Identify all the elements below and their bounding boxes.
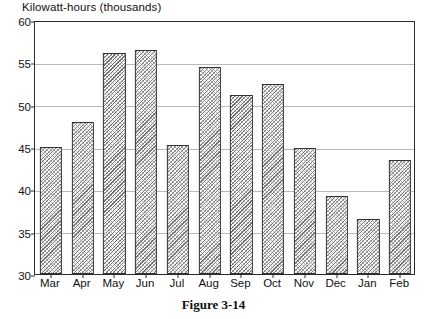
- bar-apr[interactable]: [72, 122, 94, 274]
- bar-slot: [257, 22, 289, 274]
- bar-slot: [353, 22, 385, 274]
- x-axis-tick-label-aug: Aug: [198, 277, 218, 289]
- x-axis-tick-label-oct: Oct: [263, 277, 281, 289]
- bar-sep[interactable]: [230, 95, 252, 274]
- bar-slot: [67, 22, 99, 274]
- x-axis-tick-label-mar: Mar: [40, 277, 60, 289]
- bar-slot: [226, 22, 258, 274]
- x-axis-tick-label-apr: Apr: [73, 277, 91, 289]
- x-axis-tick-label-dec: Dec: [325, 277, 345, 289]
- x-axis-labels: MarAprMayJunJulAugSepOctNovDecJanFeb: [34, 277, 415, 293]
- bar-dec[interactable]: [326, 196, 348, 274]
- bar-slot: [289, 22, 321, 274]
- bar-slot: [35, 22, 67, 274]
- figure-container: Kilowatt-hours (thousands) 3035404550556…: [0, 0, 427, 319]
- x-axis-tick-label-jan: Jan: [358, 277, 377, 289]
- bar-slot: [130, 22, 162, 274]
- figure-caption: Figure 3-14: [0, 297, 427, 313]
- y-axis-tick-label: 60: [18, 16, 31, 28]
- y-axis-tick-label: 30: [18, 270, 31, 282]
- bar-jun[interactable]: [135, 50, 157, 274]
- bar-jul[interactable]: [167, 145, 189, 274]
- bars-layer: [35, 22, 414, 274]
- x-axis-tick-label-jun: Jun: [136, 277, 155, 289]
- bar-slot: [384, 22, 416, 274]
- bar-oct[interactable]: [262, 84, 284, 274]
- x-axis-tick-label-may: May: [103, 277, 125, 289]
- bar-feb[interactable]: [389, 160, 411, 274]
- plot-area: 30354045505560: [34, 21, 415, 275]
- chart-title: Kilowatt-hours (thousands): [22, 1, 161, 13]
- bar-jan[interactable]: [357, 219, 379, 274]
- bar-slot: [321, 22, 353, 274]
- bar-may[interactable]: [103, 53, 125, 274]
- x-axis-tick-label-jul: Jul: [170, 277, 185, 289]
- bar-slot: [99, 22, 131, 274]
- y-axis-tick-label: 45: [18, 143, 31, 155]
- bar-slot: [162, 22, 194, 274]
- y-axis-tick-label: 55: [18, 58, 31, 70]
- x-axis-tick-label-sep: Sep: [230, 277, 250, 289]
- bar-mar[interactable]: [40, 147, 62, 274]
- y-axis-tick-label: 50: [18, 101, 31, 113]
- y-axis-tick-label: 40: [18, 185, 31, 197]
- bar-slot: [194, 22, 226, 274]
- x-axis-tick-label-nov: Nov: [294, 277, 314, 289]
- bar-nov[interactable]: [294, 148, 316, 274]
- y-axis-tick-label: 35: [18, 228, 31, 240]
- x-axis-tick-label-feb: Feb: [389, 277, 409, 289]
- bar-aug[interactable]: [199, 67, 221, 274]
